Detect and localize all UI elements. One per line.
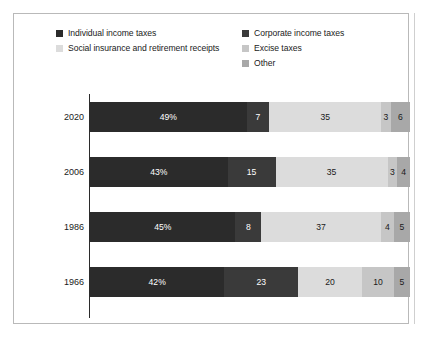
legend-swatch-corporate-icon [242,30,249,37]
category-label-1966: 1966 [26,277,84,287]
bar-row: 196642%2320105 [14,267,410,297]
bar-segment-individual: 45% [90,212,235,242]
bar-segment-social: 37 [261,212,381,242]
bar-segment-value: 35 [320,113,330,122]
bar-segment-corporate: 23 [224,267,298,297]
bar-segment-value: 45% [154,223,171,232]
bar-segment-value: 4 [401,168,406,177]
bar-segment-value: 7 [256,113,261,122]
bar-segment-value: 43% [150,168,167,177]
bar-segment-value: 3 [390,168,395,177]
bar-segment-other: 6 [391,102,410,132]
category-label-2006: 2006 [26,167,84,177]
legend-label-individual: Individual income taxes [68,26,156,41]
bar-segment-value: 8 [246,223,251,232]
legend-item-individual: Individual income taxes [56,26,242,41]
bar-segment-corporate: 15 [228,157,276,187]
legend-item-corporate: Corporate income taxes [242,26,392,41]
bar-segment-other: 5 [394,267,410,297]
legend-label-corporate: Corporate income taxes [254,26,344,41]
figure-frame: Individual income taxesCorporate income … [13,13,409,324]
legend-item-excise: Excise taxes [242,41,392,56]
bar-segment-value: 5 [400,223,405,232]
bar-segment-value: 15 [247,168,257,177]
legend-swatch-other-icon [242,60,249,67]
bar-segment-value: 23 [256,278,266,287]
legend-label-excise: Excise taxes [254,41,302,56]
bar-segment-value: 4 [385,223,390,232]
bar-row: 198645%83745 [14,212,410,242]
legend-swatch-excise-icon [242,45,249,52]
category-label-2020: 2020 [26,112,84,122]
bar-segment-value: 6 [398,113,403,122]
bar-segment-value: 5 [400,278,405,287]
bar-segment-value: 49% [160,113,177,122]
legend-label-social: Social insurance and retirement receipts [68,41,219,56]
legend-label-other: Other [254,56,275,71]
stacked-bar-1966: 42%2320105 [90,267,410,297]
stacked-bar-1986: 45%83745 [90,212,410,242]
stacked-bar-2006: 43%153534 [90,157,410,187]
bar-segment-social: 35 [269,102,381,132]
bar-segment-excise: 10 [362,267,394,297]
bar-segment-individual: 42% [90,267,224,297]
legend-swatch-individual-icon [56,30,63,37]
bar-segment-other: 4 [397,157,410,187]
legend-item-social: Social insurance and retirement receipts [56,41,242,56]
bar-segment-value: 20 [325,278,335,287]
category-label-1986: 1986 [26,222,84,232]
bar-segment-social: 35 [276,157,388,187]
bar-segment-excise: 4 [381,212,394,242]
page-right-edge [414,13,425,324]
legend-item-other: Other [242,56,392,71]
bar-segment-corporate: 7 [247,102,269,132]
bar-segment-value: 37 [316,223,326,232]
legend-swatch-social-icon [56,45,63,52]
bar-segment-value: 3 [384,113,389,122]
bar-segment-social: 20 [298,267,362,297]
stacked-bar-2020: 49%73536 [90,102,410,132]
bar-segment-value: 10 [373,278,383,287]
bar-segment-individual: 43% [90,157,228,187]
bar-segment-excise: 3 [388,157,398,187]
bar-segment-value: 42% [149,278,166,287]
chart-legend: Individual income taxesCorporate income … [56,26,396,71]
scanned-page: Individual income taxesCorporate income … [0,0,425,339]
plot-area: 202049%73536200643%153534198645%83745196… [14,84,410,322]
bar-segment-individual: 49% [90,102,247,132]
bar-segment-corporate: 8 [235,212,261,242]
bar-segment-excise: 3 [381,102,391,132]
bar-segment-value: 35 [327,168,337,177]
bar-row: 202049%73536 [14,102,410,132]
bar-segment-other: 5 [394,212,410,242]
bar-row: 200643%153534 [14,157,410,187]
